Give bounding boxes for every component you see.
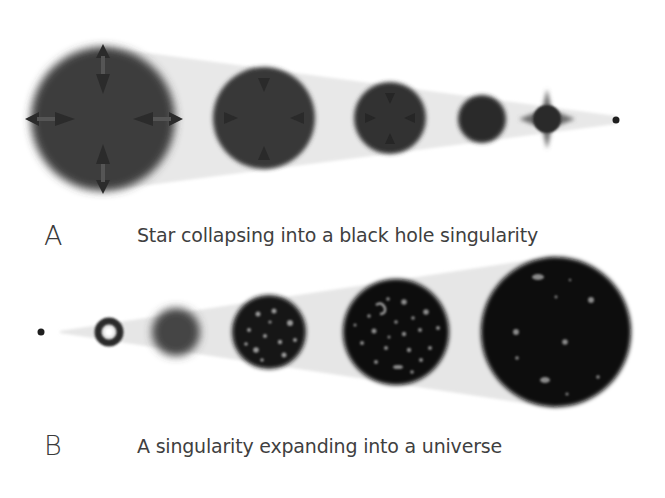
collapsing-star-spiked [519,89,575,149]
early-universe [232,295,306,369]
panel-b-letter: B [44,432,62,459]
singularity-dot [38,329,45,336]
expanding-ring [98,321,120,343]
galaxy-universe [343,279,449,385]
panel-a-caption: Star collapsing into a black hole singul… [137,226,538,245]
collapsing-star-small [354,82,426,154]
black-hole-singularity-dot [613,117,620,124]
fuzzy-sphere [152,308,200,356]
diagram-canvas [0,0,665,498]
panel-a-letter: A [44,222,62,249]
panel-b-caption: A singularity expanding into a universe [137,437,502,456]
mature-universe [481,257,631,407]
collapsing-star-medium [213,67,315,169]
